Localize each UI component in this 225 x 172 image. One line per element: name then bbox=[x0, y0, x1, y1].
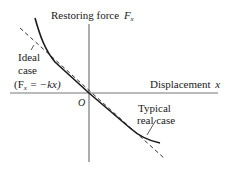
typical-case-label-line1: Typical bbox=[138, 102, 171, 114]
ideal-case-label-line2: case bbox=[18, 64, 37, 76]
ideal-case-label-line1: Ideal bbox=[18, 51, 40, 63]
ideal-leader-line bbox=[31, 45, 34, 50]
y-axis-label: Restoring force Fx bbox=[51, 9, 135, 23]
typical-case-label-line2: real case bbox=[137, 114, 175, 126]
x-axis-label: Displacement x bbox=[150, 78, 220, 90]
origin-label: O bbox=[78, 97, 85, 108]
force-displacement-diagram: Restoring force Fx Displacement x O Idea… bbox=[0, 0, 225, 172]
ideal-case-equation: (Fx = −kx) bbox=[14, 78, 61, 92]
